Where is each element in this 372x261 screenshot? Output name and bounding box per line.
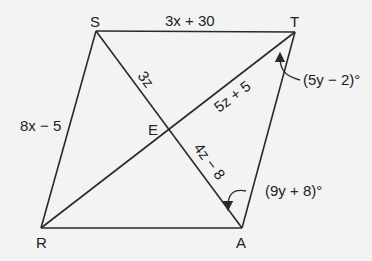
parallelogram-diagram: S T A R E 3x + 30 8x − 5 3z 5z + 5 4z − … bbox=[0, 0, 372, 261]
vertex-label-t: T bbox=[290, 13, 299, 30]
angle-label-a: (9y + 8)° bbox=[265, 182, 322, 199]
vertex-label-s: S bbox=[90, 13, 100, 30]
vertex-label-e: E bbox=[148, 121, 158, 138]
diagonal-rt bbox=[41, 32, 295, 228]
vertex-label-r: R bbox=[36, 234, 47, 251]
angle-arrow-a bbox=[228, 190, 246, 206]
side-st bbox=[96, 31, 295, 32]
side-label-sr: 8x − 5 bbox=[20, 117, 61, 134]
angle-label-t: (5y − 2)° bbox=[303, 71, 360, 88]
side-label-st: 3x + 30 bbox=[165, 12, 215, 29]
segment-label-ea: 4z − 8 bbox=[191, 140, 229, 183]
vertex-label-a: A bbox=[236, 234, 246, 251]
segment-label-et: 5z + 5 bbox=[211, 77, 254, 115]
